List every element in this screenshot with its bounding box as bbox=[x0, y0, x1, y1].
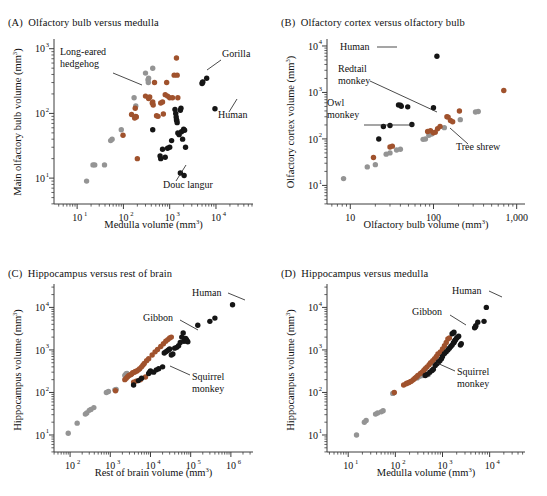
data-point bbox=[365, 164, 370, 169]
data-point bbox=[185, 339, 190, 344]
y-axis-title: Olfactory cortex volume (mm3) bbox=[284, 55, 297, 188]
data-point bbox=[160, 146, 165, 151]
data-point bbox=[473, 109, 478, 114]
data-point bbox=[448, 344, 453, 349]
annotation-leader-line bbox=[489, 291, 502, 297]
data-point bbox=[148, 368, 153, 373]
svg-text:4: 4 bbox=[46, 300, 50, 307]
x-tick-label: 100 bbox=[426, 212, 441, 223]
data-point bbox=[140, 362, 145, 367]
data-point bbox=[451, 330, 456, 335]
data-point bbox=[484, 305, 489, 310]
annotation-label: monkey bbox=[192, 383, 224, 394]
svg-text:10: 10 bbox=[35, 387, 45, 398]
data-point bbox=[501, 88, 506, 93]
data-point bbox=[161, 341, 166, 346]
x-tick-label: 101 bbox=[72, 210, 87, 223]
x-tick-label: 1,000 bbox=[505, 212, 528, 223]
data-point bbox=[376, 136, 381, 141]
data-point bbox=[150, 100, 155, 105]
svg-text:10: 10 bbox=[35, 430, 45, 441]
data-point bbox=[448, 118, 453, 123]
annotation-label: Douc langur bbox=[163, 179, 213, 190]
y-tick-label: 101 bbox=[308, 427, 322, 440]
data-point bbox=[147, 94, 152, 99]
data-point bbox=[120, 133, 125, 138]
series-insectivores bbox=[341, 109, 481, 182]
data-point bbox=[183, 145, 188, 150]
data-point bbox=[167, 346, 172, 351]
data-point bbox=[180, 136, 185, 141]
data-point bbox=[181, 339, 186, 344]
svg-text:2: 2 bbox=[46, 106, 49, 113]
data-point bbox=[398, 103, 403, 108]
data-point bbox=[83, 411, 88, 416]
data-point bbox=[419, 369, 424, 374]
data-point bbox=[122, 377, 127, 382]
series-anthropoids bbox=[150, 76, 218, 179]
data-point bbox=[92, 162, 97, 167]
data-point bbox=[473, 323, 478, 328]
data-point bbox=[178, 108, 183, 113]
svg-text:3: 3 bbox=[449, 458, 453, 465]
data-point bbox=[88, 407, 93, 412]
data-point bbox=[167, 335, 172, 340]
x-tick-label: 102 bbox=[118, 210, 133, 223]
x-tick-label: 102 bbox=[390, 458, 405, 471]
panel-label: (A) bbox=[8, 17, 23, 28]
data-point bbox=[134, 368, 139, 373]
data-point bbox=[445, 347, 450, 352]
data-point bbox=[66, 431, 71, 436]
data-point bbox=[182, 128, 187, 133]
data-point bbox=[149, 352, 154, 357]
panel-title-text: Olfactory bulb versus medulla bbox=[28, 17, 158, 28]
svg-text:10: 10 bbox=[308, 387, 318, 398]
data-point bbox=[113, 388, 118, 393]
data-point bbox=[457, 108, 462, 113]
svg-text:3: 3 bbox=[117, 458, 121, 465]
y-tick-label: 104 bbox=[35, 300, 50, 313]
data-point bbox=[143, 93, 148, 98]
data-point bbox=[212, 106, 217, 111]
data-point bbox=[378, 409, 383, 414]
data-point bbox=[423, 366, 428, 371]
data-point bbox=[182, 337, 187, 342]
data-point bbox=[167, 145, 172, 150]
data-point bbox=[435, 126, 440, 131]
data-point bbox=[169, 334, 174, 339]
annotation-leader-line bbox=[229, 99, 237, 112]
data-point bbox=[475, 319, 480, 324]
data-point bbox=[139, 376, 144, 381]
data-point bbox=[145, 77, 150, 82]
data-point bbox=[452, 337, 457, 342]
annotation-leader-line bbox=[180, 320, 198, 330]
data-point bbox=[435, 351, 440, 356]
data-point bbox=[126, 373, 131, 378]
svg-text:10: 10 bbox=[308, 302, 318, 313]
data-point bbox=[426, 362, 431, 367]
data-point bbox=[434, 354, 439, 359]
annotation-leader-line bbox=[176, 165, 186, 181]
y-tick-label: 102 bbox=[35, 106, 49, 119]
svg-text:4: 4 bbox=[319, 38, 323, 45]
svg-text:3: 3 bbox=[46, 41, 50, 48]
data-point bbox=[142, 361, 147, 366]
svg-text:10: 10 bbox=[72, 212, 82, 223]
annotation-label: Human bbox=[218, 109, 247, 120]
y-tick-label: 103 bbox=[35, 342, 50, 355]
data-point bbox=[174, 120, 179, 125]
data-point bbox=[459, 341, 464, 346]
figure-panel-grid: (A) Olfactory bulb versus medulla1011021… bbox=[0, 0, 547, 496]
svg-text:10: 10 bbox=[35, 345, 45, 356]
data-point bbox=[442, 343, 447, 348]
data-point bbox=[184, 337, 189, 342]
data-point bbox=[458, 342, 463, 347]
data-point bbox=[431, 367, 436, 372]
annotation-label: hedgehog bbox=[60, 58, 99, 69]
x-tick-label: 103 bbox=[438, 458, 454, 471]
annotation-label: Human bbox=[192, 287, 221, 298]
svg-text:10: 10 bbox=[308, 180, 318, 191]
data-point bbox=[136, 378, 141, 383]
data-point bbox=[158, 100, 163, 105]
data-point bbox=[174, 345, 179, 350]
